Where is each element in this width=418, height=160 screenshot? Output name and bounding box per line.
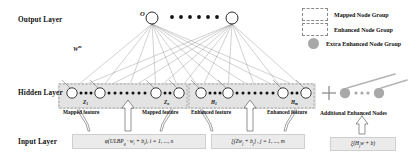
legend-swatch-extra-enhanced-node-group: [308, 38, 319, 49]
group-tag-h1: H1: [211, 100, 217, 106]
output-node-left: [146, 12, 158, 24]
legend-label-mapped-node-group: Mapped Node Group: [334, 12, 389, 18]
caption-mapped-feature-n: Mapped feature: [142, 110, 178, 115]
output-nodes: [146, 12, 238, 24]
group-tag-zn-sub: n: [167, 102, 169, 106]
hidden-layer-label: Hidden Layer: [18, 90, 63, 97]
extra-enhanced-nodes: [340, 88, 384, 98]
legend-label-enhanced-node-group: Enhanced Node Group: [334, 27, 393, 33]
output-node-symbol: O: [140, 10, 145, 17]
output-ellipsis-dots: [170, 15, 219, 19]
hidden-node-z1-end: [95, 88, 105, 98]
group-tag-h1-sub: 1: [215, 102, 217, 106]
formula-pointer-lines: [77, 110, 297, 131]
caption-enhanced-feature-1: Enhanced feature: [191, 110, 231, 115]
additional-enhanced-nodes-label: Additional Enhanced Nodes: [320, 110, 387, 116]
caption-mapped-feature-1: Mapped feature: [63, 110, 99, 115]
weight-label: Wm: [73, 44, 82, 52]
extra-node-connections: [347, 74, 407, 88]
hidden-node-hm-end: [301, 88, 311, 98]
output-node-right: [226, 12, 238, 24]
hidden-node-zn-start: [151, 88, 161, 98]
formula-additional: ξ(Hjw + b): [330, 141, 396, 149]
group-tag-zn: Zn: [164, 100, 169, 106]
output-layer-label: Output Layer: [18, 17, 62, 24]
legend-label-extra-enhanced-node-group: Extra Enhanced Node Group: [326, 41, 401, 47]
group-tag-z1-sub: 1: [86, 102, 88, 106]
network-diagram: [0, 0, 418, 160]
hidden-node-h1-start: [196, 88, 206, 98]
formula-mapped: φ(ULBPg · wi + bi), i = 1, ..., n: [72, 139, 206, 147]
formula-enhanced: ξ(Zwj + bj) , j = 1, ..., m: [211, 139, 305, 147]
hidden-node-z1-start: [67, 88, 77, 98]
plus-sign-icon: [322, 86, 336, 100]
weight-label-sup: m: [78, 44, 81, 49]
input-layer-label: Input Layer: [18, 139, 57, 146]
caption-enhanced-feature-m: Enhanced feature: [267, 110, 307, 115]
connection-lines: [72, 24, 306, 90]
group-tag-hm-sub: m: [295, 102, 298, 106]
hidden-node-h1-end: [223, 88, 233, 98]
block-arrow-additional: [356, 116, 368, 134]
group-tag-hm-base-wrap: Hm: [291, 100, 298, 106]
legend-swatch-enhanced-node-group: [302, 23, 328, 36]
legend-swatch-mapped-node-group: [302, 8, 328, 21]
extra-node-end: [374, 88, 384, 98]
group-tag-z1: Z1: [83, 100, 88, 106]
extra-node-start: [340, 88, 350, 98]
hidden-node-hm-start: [278, 88, 288, 98]
hidden-node-zn-end: [174, 88, 184, 98]
